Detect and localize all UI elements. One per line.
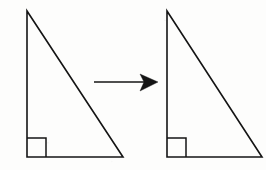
geometry-figure: [0, 0, 266, 170]
figure-canvas: Two congruent right triangles separated …: [0, 0, 266, 170]
figure-background: [0, 0, 266, 170]
